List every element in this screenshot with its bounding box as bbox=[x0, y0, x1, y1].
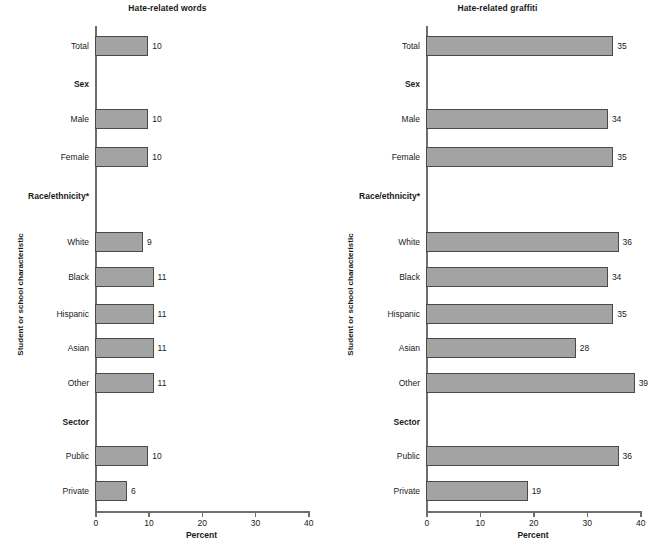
bar-value-left-other: 11 bbox=[158, 378, 167, 388]
bar-left-hispanic bbox=[95, 304, 154, 324]
bar-value-left-total: 10 bbox=[152, 41, 161, 51]
x-tick-right-10 bbox=[480, 512, 482, 517]
x-tick-left-10 bbox=[148, 512, 150, 517]
bar-value-left-black: 11 bbox=[158, 272, 167, 282]
plot-area-left: 010203040PercentTotal10SexMale10Female10… bbox=[0, 0, 335, 542]
bar-right-hispanic bbox=[426, 304, 613, 324]
bar-left-male bbox=[95, 109, 148, 129]
bar-value-right-white: 36 bbox=[623, 237, 632, 247]
category-label-right-other: Other bbox=[330, 378, 420, 388]
bar-value-right-private: 19 bbox=[532, 486, 541, 496]
bar-value-right-asian: 28 bbox=[580, 343, 589, 353]
x-tick-label-right-40: 40 bbox=[636, 518, 645, 528]
bar-value-right-female: 35 bbox=[617, 152, 626, 162]
x-tick-label-left-20: 20 bbox=[198, 518, 207, 528]
bar-value-right-male: 34 bbox=[612, 114, 621, 124]
x-tick-label-left-10: 10 bbox=[144, 518, 153, 528]
bar-right-public bbox=[426, 446, 619, 466]
bar-value-right-black: 34 bbox=[612, 272, 621, 282]
bar-right-other bbox=[426, 373, 635, 393]
x-tick-right-0 bbox=[426, 512, 428, 517]
bar-left-public bbox=[95, 446, 148, 466]
x-tick-left-30 bbox=[255, 512, 257, 517]
bar-value-left-asian: 11 bbox=[158, 343, 167, 353]
bar-value-left-private: 6 bbox=[131, 486, 136, 496]
category-label-left-male: Male bbox=[0, 114, 89, 124]
bar-left-private bbox=[95, 481, 127, 501]
chart-panel-hate-related-words: Hate-related words Student or school cha… bbox=[0, 0, 335, 542]
category-label-right-race-ethnicity: Race/ethnicity* bbox=[330, 191, 420, 201]
category-label-left-asian: Asian bbox=[0, 343, 89, 353]
category-label-left-black: Black bbox=[0, 272, 89, 282]
x-tick-right-30 bbox=[587, 512, 589, 517]
bar-value-right-other: 39 bbox=[639, 378, 648, 388]
category-label-left-female: Female bbox=[0, 152, 89, 162]
x-tick-label-left-0: 0 bbox=[93, 518, 98, 528]
category-label-left-hispanic: Hispanic bbox=[0, 309, 89, 319]
bar-right-male bbox=[426, 109, 608, 129]
category-label-right-black: Black bbox=[330, 272, 420, 282]
bar-value-right-total: 35 bbox=[617, 41, 626, 51]
category-label-right-female: Female bbox=[330, 152, 420, 162]
bar-right-total bbox=[426, 36, 613, 56]
bar-right-white bbox=[426, 232, 619, 252]
bar-value-left-white: 9 bbox=[147, 237, 152, 247]
bar-value-left-female: 10 bbox=[152, 152, 161, 162]
bar-left-total bbox=[95, 36, 148, 56]
category-label-right-asian: Asian bbox=[330, 343, 420, 353]
bar-right-female bbox=[426, 147, 613, 167]
figure-root: Hate-related words Student or school cha… bbox=[0, 0, 665, 542]
x-tick-label-right-20: 20 bbox=[529, 518, 538, 528]
category-label-right-public: Public bbox=[330, 451, 420, 461]
x-tick-label-left-30: 30 bbox=[251, 518, 260, 528]
x-tick-label-right-10: 10 bbox=[476, 518, 485, 528]
category-label-left-sector: Sector bbox=[0, 417, 89, 427]
category-label-left-sex: Sex bbox=[0, 79, 89, 89]
bar-value-left-hispanic: 11 bbox=[158, 309, 167, 319]
x-axis-label-left: Percent bbox=[186, 530, 217, 540]
bar-left-white bbox=[95, 232, 143, 252]
category-label-right-private: Private bbox=[330, 486, 420, 496]
bar-left-other bbox=[95, 373, 154, 393]
category-label-left-public: Public bbox=[0, 451, 89, 461]
x-tick-label-right-30: 30 bbox=[583, 518, 592, 528]
bar-value-left-male: 10 bbox=[152, 114, 161, 124]
bar-left-black bbox=[95, 267, 154, 287]
category-label-right-hispanic: Hispanic bbox=[330, 309, 420, 319]
x-tick-left-0 bbox=[95, 512, 97, 517]
x-tick-right-40 bbox=[640, 512, 642, 517]
x-tick-right-20 bbox=[533, 512, 535, 517]
category-label-left-total: Total bbox=[0, 41, 89, 51]
bar-right-black bbox=[426, 267, 608, 287]
bar-value-right-public: 36 bbox=[623, 451, 632, 461]
category-label-right-male: Male bbox=[330, 114, 420, 124]
chart-panel-hate-related-graffiti: Hate-related graffiti Student or school … bbox=[330, 0, 665, 542]
category-label-right-sector: Sector bbox=[330, 417, 420, 427]
x-tick-label-left-40: 40 bbox=[304, 518, 313, 528]
bar-value-left-public: 10 bbox=[152, 451, 161, 461]
category-label-right-total: Total bbox=[330, 41, 420, 51]
category-label-right-sex: Sex bbox=[330, 79, 420, 89]
bar-right-private bbox=[426, 481, 528, 501]
bar-value-right-hispanic: 35 bbox=[617, 309, 626, 319]
category-label-left-race-ethnicity: Race/ethnicity* bbox=[0, 191, 89, 201]
x-tick-left-40 bbox=[308, 512, 310, 517]
x-axis-label-right: Percent bbox=[517, 530, 548, 540]
category-label-left-private: Private bbox=[0, 486, 89, 496]
bar-right-asian bbox=[426, 338, 576, 358]
category-label-right-white: White bbox=[330, 237, 420, 247]
bar-left-female bbox=[95, 147, 148, 167]
x-tick-label-right-0: 0 bbox=[424, 518, 429, 528]
bar-left-asian bbox=[95, 338, 154, 358]
category-label-left-other: Other bbox=[0, 378, 89, 388]
plot-area-right: 010203040PercentTotal35SexMale34Female35… bbox=[330, 0, 665, 542]
category-label-left-white: White bbox=[0, 237, 89, 247]
x-tick-left-20 bbox=[202, 512, 204, 517]
